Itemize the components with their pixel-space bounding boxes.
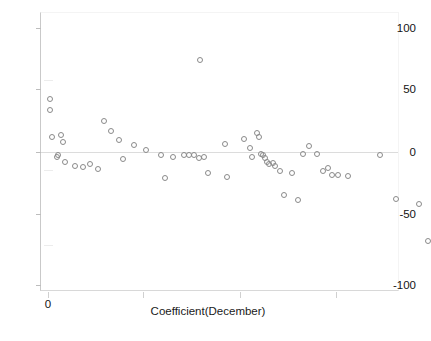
y-tick-label-50: 50 — [382, 83, 416, 95]
y-tick-mark-0 — [36, 152, 41, 153]
x-tick-mark-3 — [336, 292, 337, 298]
scatter-point — [425, 238, 431, 244]
scatter-point — [416, 201, 422, 207]
grid-stub-lower — [44, 245, 53, 246]
y-tick-label-neg100: -100 — [382, 279, 416, 291]
x-tick-mark-2 — [240, 292, 241, 298]
y-tick-label-0: 0 — [382, 146, 416, 158]
grid-stub-upper — [44, 80, 53, 81]
y-tick-mark-neg50 — [36, 214, 41, 215]
y-tick-mark-neg100 — [36, 285, 41, 286]
y-tick-mark-50 — [36, 89, 41, 90]
y-tick-label-100: 100 — [382, 22, 416, 34]
x-tick-mark-1 — [143, 292, 144, 298]
y-tick-mark-100 — [36, 28, 41, 29]
x-axis-title: Coefficient(December) — [0, 305, 416, 317]
zero-reference-line — [41, 152, 398, 153]
y-tick-label-neg50: -50 — [382, 208, 416, 220]
grid-stub-mid — [44, 170, 53, 171]
